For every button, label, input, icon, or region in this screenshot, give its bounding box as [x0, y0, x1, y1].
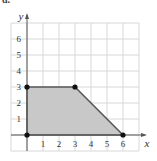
x-tick-label: 4 [89, 139, 94, 149]
x-tick-label: 5 [105, 139, 110, 149]
y-tick-label: 5 [17, 50, 22, 60]
y-tick-label: 6 [17, 34, 22, 44]
x-tick-label: 2 [57, 139, 62, 149]
y-axis-arrow-icon [25, 13, 29, 19]
x-tick-label: 6 [121, 139, 126, 149]
x-tick-label: 3 [73, 139, 78, 149]
feasible-region [27, 87, 123, 135]
y-tick-label: 4 [17, 66, 22, 76]
x-tick-label: 1 [41, 139, 46, 149]
y-axis-label: y [18, 10, 24, 22]
y-tick-label: 3 [17, 82, 22, 92]
vertex-point [24, 84, 29, 89]
vertex-point [24, 132, 29, 137]
x-axis-label: x [144, 137, 150, 149]
feasible-region-chart: 123456123456xy [0, 0, 157, 161]
vertex-point [72, 84, 77, 89]
y-tick-label: 1 [17, 114, 22, 124]
vertex-point [120, 132, 125, 137]
y-tick-label: 2 [17, 98, 22, 108]
